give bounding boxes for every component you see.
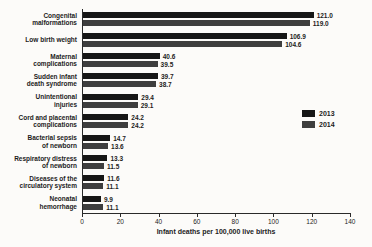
x-tick [235, 214, 236, 217]
x-tick-label: 0 [80, 218, 84, 225]
value-label: 11.5 [107, 163, 119, 170]
bar-2014: 13.6 [82, 143, 108, 149]
value-label: 24.2 [131, 114, 144, 121]
x-tick-label: 20 [117, 218, 124, 225]
bar-group: Bacterial sepsis of newborn14.713.6 [0, 131, 350, 151]
bar-2014: 39.5 [82, 61, 158, 67]
bar-2014: 11.5 [82, 163, 104, 169]
value-label: 119.0 [313, 20, 329, 27]
bar-pair: 29.429.1 [82, 91, 350, 111]
value-label: 24.2 [131, 122, 144, 129]
x-tick [159, 214, 160, 217]
bar-group: Diseases of the circulatory system11.611… [0, 172, 350, 192]
x-tick [120, 214, 121, 217]
category-label: Low birth weight [0, 29, 82, 49]
legend: 20132014 [302, 110, 335, 128]
value-label: 29.1 [141, 101, 154, 108]
legend-label: 2013 [319, 110, 335, 117]
x-tick-label: 40 [155, 218, 162, 225]
value-label: 121.0 [317, 12, 333, 19]
legend-swatch-2014 [302, 121, 315, 128]
category-label: Sudden infant death syndrome [0, 70, 82, 90]
bar-group: Neonatal hemorrhage9.911.1 [0, 193, 350, 213]
bar-2014: 119.0 [82, 20, 310, 26]
bar-chart-figure: Congenital malformations121.0119.0Low bi… [0, 0, 372, 247]
x-tick [197, 214, 198, 217]
value-label: 14.7 [113, 134, 126, 141]
bar-pair: 9.911.1 [82, 193, 350, 213]
bar-2013: 9.9 [82, 196, 101, 202]
value-label: 9.9 [104, 195, 113, 202]
bar-group: Respiratory distress of newborn13.311.5 [0, 152, 350, 172]
bar-2013: 106.9 [82, 33, 287, 39]
legend-label: 2014 [319, 121, 335, 128]
bar-2013: 121.0 [82, 12, 314, 18]
bar-2014: 29.1 [82, 102, 138, 108]
x-tick [82, 214, 83, 217]
x-tick-label: 80 [232, 218, 239, 225]
category-label: Congenital malformations [0, 9, 82, 29]
legend-swatch-2013 [302, 110, 315, 117]
bar-pair: 11.611.1 [82, 172, 350, 192]
bar-group: Sudden infant death syndrome39.738.7 [0, 70, 350, 90]
bar-2013: 24.2 [82, 114, 128, 120]
bar-pair: 14.713.6 [82, 131, 350, 151]
bar-pair: 13.311.5 [82, 152, 350, 172]
bar-2013: 39.7 [82, 73, 158, 79]
bar-2013: 29.4 [82, 94, 138, 100]
category-label: Unintentional injuries [0, 91, 82, 111]
bar-group: Maternal complications40.639.5 [0, 50, 350, 70]
bar-group: Unintentional injuries29.429.1 [0, 91, 350, 111]
value-label: 38.7 [159, 81, 172, 88]
value-label: 40.6 [163, 53, 176, 60]
bar-2013: 14.7 [82, 135, 110, 141]
bar-group: Cord and placental complications24.224.2 [0, 111, 350, 131]
bar-2013: 40.6 [82, 53, 160, 59]
category-label: Neonatal hemorrhage [0, 193, 82, 213]
bar-2014: 104.6 [82, 41, 282, 47]
value-label: 106.9 [290, 32, 306, 39]
value-label: 13.3 [110, 155, 123, 162]
category-label: Bacterial sepsis of newborn [0, 131, 82, 151]
x-tick-label: 140 [345, 218, 356, 225]
bar-pair: 39.738.7 [82, 70, 350, 90]
bar-2013: 13.3 [82, 155, 107, 161]
category-label: Diseases of the circulatory system [0, 172, 82, 192]
legend-item-2014: 2014 [302, 121, 335, 128]
bar-2013: 11.6 [82, 175, 104, 181]
value-label: 11.1 [106, 203, 118, 210]
value-label: 13.6 [111, 142, 124, 149]
x-tick [273, 214, 274, 217]
x-tick-label: 60 [193, 218, 200, 225]
bar-pair: 106.9104.6 [82, 29, 350, 49]
category-label: Cord and placental complications [0, 111, 82, 131]
category-label: Respiratory distress of newborn [0, 152, 82, 172]
bar-group: Congenital malformations121.0119.0 [0, 9, 350, 29]
x-tick [312, 214, 313, 217]
value-label: 29.4 [141, 93, 154, 100]
bar-group: Low birth weight106.9104.6 [0, 29, 350, 49]
value-label: 11.6 [107, 175, 119, 182]
chart-rows: Congenital malformations121.0119.0Low bi… [0, 9, 350, 213]
bar-2014: 24.2 [82, 122, 128, 128]
value-label: 11.1 [106, 183, 118, 190]
y-axis-line [82, 9, 83, 214]
bar-pair: 121.0119.0 [82, 9, 350, 29]
bar-2014: 11.1 [82, 204, 103, 210]
legend-item-2013: 2013 [302, 110, 335, 117]
bar-2014: 38.7 [82, 81, 156, 87]
x-tick-label: 120 [306, 218, 317, 225]
x-tick [350, 214, 351, 217]
x-tick-label: 100 [268, 218, 279, 225]
value-label: 39.5 [161, 61, 174, 68]
category-label: Maternal complications [0, 50, 82, 70]
value-label: 39.7 [161, 73, 174, 80]
bar-pair: 40.639.5 [82, 50, 350, 70]
value-label: 104.6 [285, 40, 301, 47]
x-axis-title: Infant deaths per 100,000 live births [82, 228, 350, 235]
bar-2014: 11.1 [82, 183, 103, 189]
x-axis-line [82, 213, 351, 214]
